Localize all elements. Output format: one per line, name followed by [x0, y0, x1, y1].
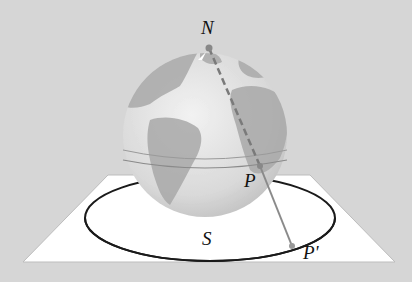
north-pole-point — [206, 45, 213, 52]
label-s: S — [202, 228, 212, 249]
point-p-prime — [289, 243, 295, 249]
point-p — [257, 163, 263, 169]
label-p-prime: P' — [302, 242, 320, 263]
label-n: N — [200, 17, 215, 38]
stereographic-projection-diagram: N P S P' — [0, 0, 412, 282]
label-p: P — [243, 170, 256, 191]
globe — [122, 51, 288, 217]
